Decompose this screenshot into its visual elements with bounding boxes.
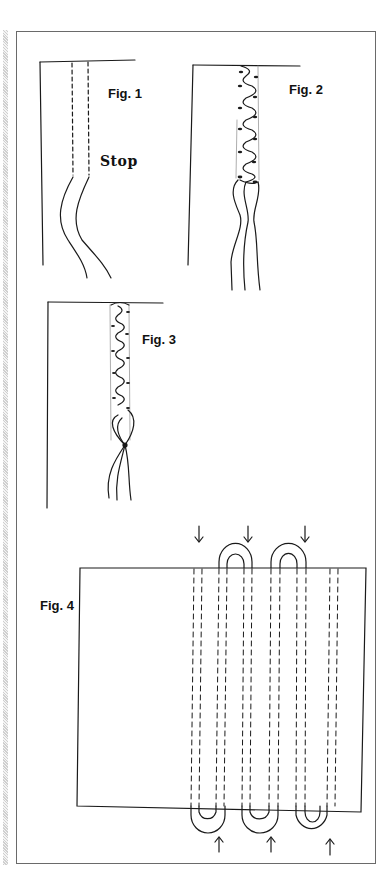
- figures-canvas: [0, 0, 390, 891]
- figure-1-stop-annotation: Stop: [100, 153, 138, 169]
- figure-1-label: Fig. 1: [108, 86, 142, 101]
- figure-4-diagram: [77, 526, 366, 855]
- arrow-up-icon: [267, 837, 275, 852]
- figure-3-label: Fig. 3: [142, 332, 176, 347]
- arrow-down-icon: [301, 526, 309, 542]
- figure-2-label: Fig. 2: [289, 82, 323, 97]
- arrow-up-icon: [326, 839, 334, 855]
- arrow-down-icon: [244, 526, 252, 542]
- arrow-down-icon: [195, 526, 203, 542]
- arrow-up-icon: [215, 837, 223, 852]
- figure-4-label: Fig. 4: [40, 598, 74, 613]
- figure-2-diagram: [188, 65, 300, 290]
